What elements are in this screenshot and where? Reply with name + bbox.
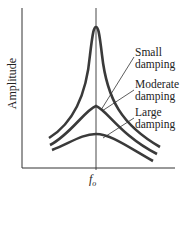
- label-line: damping: [135, 90, 179, 102]
- label-line: Moderate: [135, 78, 179, 90]
- label-line: Large: [135, 106, 175, 118]
- label-moderate-damping: Moderate damping: [135, 78, 179, 102]
- label-line: damping: [135, 118, 175, 130]
- x-tick-sub: o: [92, 179, 96, 188]
- y-axis-label: Amplitude: [5, 54, 20, 114]
- label-small-damping: Small damping: [135, 46, 175, 70]
- leader-small: [101, 57, 134, 110]
- curve-large-damping: [52, 134, 153, 161]
- label-line: Small: [135, 46, 175, 58]
- label-line: damping: [135, 58, 175, 70]
- label-large-damping: Large damping: [135, 106, 175, 130]
- x-tick-f0: fo: [89, 172, 96, 188]
